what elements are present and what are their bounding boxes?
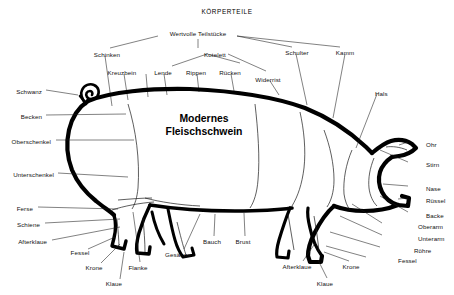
label-oberarm: Oberarm	[418, 224, 443, 230]
label-schinken: Schinken	[94, 52, 120, 58]
label-ferse: Ferse	[17, 206, 33, 212]
label-bauch: Bauch	[203, 239, 221, 245]
label-becken: Becken	[21, 114, 42, 120]
label-brust: Brust	[236, 239, 251, 245]
label-ruessel: Rüssel	[426, 198, 446, 204]
right-leader-lines	[326, 94, 408, 257]
label-schwanz: Schwanz	[16, 89, 42, 95]
label-unterschenkel: Unterschenkel	[13, 172, 54, 178]
label-ohr: Ohr	[426, 142, 437, 148]
label-afterklaue: Afterklaue	[18, 239, 47, 245]
label-fessel: Fessel	[398, 258, 417, 264]
label-kamm: Kamm	[336, 50, 354, 56]
label-oberschenkel: Oberschenkel	[12, 139, 51, 145]
label-backe: Backe	[426, 213, 444, 219]
label-nase: Nase	[426, 186, 441, 192]
label-fessel: Fessel	[71, 250, 90, 256]
label-unterarm: Unterarm	[418, 236, 445, 242]
label-kotelett: Kotelett	[204, 52, 226, 58]
label-hals: Hals	[375, 91, 388, 97]
center-title-line2: Fleischschwein	[166, 125, 243, 138]
center-title-line1: Modernes	[166, 112, 243, 125]
label-widerrist: Widerrist	[255, 77, 280, 83]
label-klaue: Klaue	[317, 281, 333, 287]
interior-detail-lines	[112, 104, 407, 255]
cut-group-label: Wertvolle Teilstücke	[170, 31, 226, 37]
label-kreuzbein: Kreuzbein	[108, 70, 137, 76]
label-afterklaue: Afterklaue	[283, 264, 312, 270]
label-gesaeuge: Gesäuge	[165, 252, 191, 258]
label-stirn: Stirn	[426, 162, 439, 168]
label-ruecken: Rücken	[219, 70, 241, 76]
label-lende: Lende	[154, 70, 172, 76]
label-rippen: Rippen	[186, 70, 206, 76]
label-flanke: Flanke	[128, 265, 147, 271]
label-klaue: Klaue	[106, 281, 122, 287]
label-roehre: Röhre	[414, 248, 431, 254]
label-krone: Krone	[342, 264, 359, 270]
label-krone: Krone	[85, 265, 102, 271]
center-title: Modernes Fleischschwein	[166, 112, 243, 138]
bottom-leader-lines	[184, 213, 349, 278]
label-schulter: Schulter	[285, 50, 309, 56]
pig-silhouette	[67, 84, 416, 262]
label-schiene: Schiene	[17, 222, 40, 228]
diagram-canvas	[0, 0, 454, 295]
pig-anatomy-diagram: KÖRPERTEILE	[0, 0, 454, 295]
